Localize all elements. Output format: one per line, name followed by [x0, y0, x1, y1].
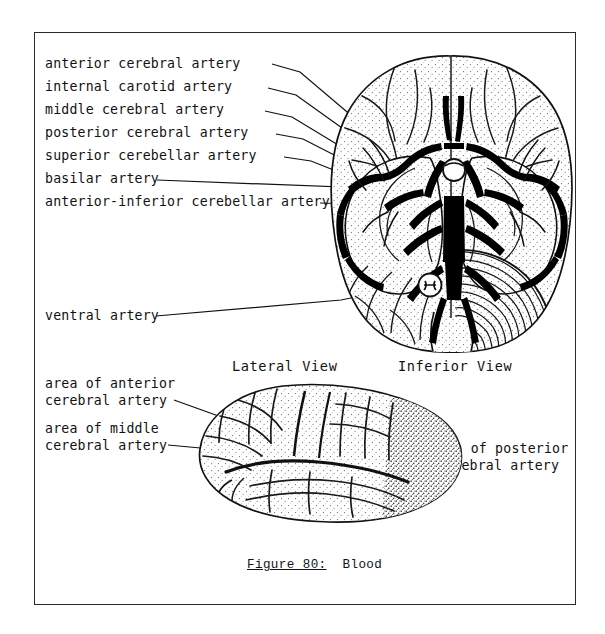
label-ventral-artery: ventral artery [45, 308, 159, 323]
label-posterior-cerebral-artery: posterior cerebral artery [45, 125, 249, 140]
figure-number: Figure 80: [247, 558, 327, 572]
label-area-posterior-cerebral-artery-line2: cerebral artery [437, 458, 559, 475]
figure-title: Blood [343, 558, 383, 572]
label-area-middle-cerebral-artery-line2: cerebral artery [45, 438, 167, 455]
label-basilar-artery: basilar artery [45, 171, 159, 186]
view-title-inferior: Inferior View [398, 358, 512, 374]
figure-page: anterior cerebral artery internal caroti… [0, 0, 605, 634]
figure-caption: Figure 80: Blood [247, 558, 382, 572]
label-area-anterior-cerebral-artery-line1: area of anterior [45, 376, 175, 393]
label-middle-cerebral-artery: middle cerebral artery [45, 102, 224, 117]
label-area-posterior-cerebral-artery-line1: area of posterior [430, 441, 568, 458]
label-internal-carotid-artery: internal carotid artery [45, 79, 232, 94]
label-superior-cerebellar-artery: superior cerebellar artery [45, 148, 257, 163]
label-anterior-cerebral-artery: anterior cerebral artery [45, 56, 240, 71]
label-anterior-inferior-cerebellar-artery: anterior-inferior cerebellar artery [45, 194, 330, 209]
view-title-lateral: Lateral View [232, 358, 337, 374]
label-area-anterior-cerebral-artery-line2: cerebral artery [45, 393, 167, 410]
label-area-middle-cerebral-artery-line1: area of middle [45, 421, 159, 438]
